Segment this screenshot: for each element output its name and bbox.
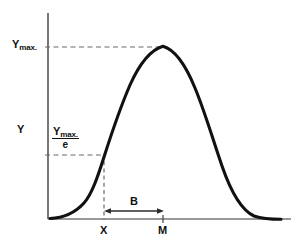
m-tick-label: M — [158, 225, 167, 236]
y-axis-label: Y — [17, 124, 24, 135]
fraction-numerator-sub: max. — [60, 130, 77, 139]
plot-canvas — [0, 0, 299, 246]
y-max-over-e-label: Ymax. e — [52, 126, 79, 150]
fraction-denominator: e — [52, 139, 79, 151]
span-b-label: B — [130, 196, 138, 207]
b-span-arrow — [104, 208, 164, 214]
bell-curve-path — [50, 46, 281, 219]
y-max-label: Ymax. — [12, 39, 37, 50]
fraction-numerator: Ymax. — [52, 126, 79, 139]
y-max-label-sub: max. — [19, 43, 36, 52]
x-tick-label: X — [100, 225, 107, 236]
bell-curve-figure: Ymax. Y Ymax. e B X M — [0, 0, 299, 246]
